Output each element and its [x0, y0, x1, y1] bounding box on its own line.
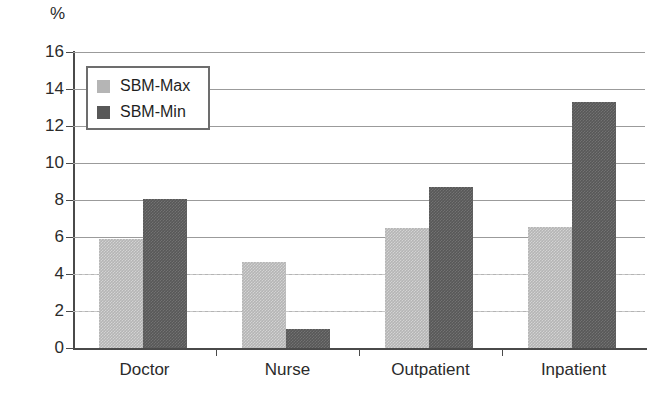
bar	[286, 329, 330, 348]
y-axis-tick-label: 16	[24, 42, 64, 62]
x-axis-line	[73, 348, 647, 350]
legend-item-sbm-min: SBM-Min	[97, 99, 208, 125]
y-axis-tick-label: 4	[24, 264, 64, 284]
legend-swatch-icon-sbm-min	[97, 106, 110, 119]
x-axis-label-inpatient: Inpatient	[541, 360, 606, 380]
y-axis-tick-labels: 0246810121416	[20, 52, 64, 348]
bar	[99, 239, 143, 348]
x-axis-label-doctor: Doctor	[119, 360, 169, 380]
legend-label-sbm-min: SBM-Min	[120, 103, 186, 121]
x-axis-tick	[502, 348, 503, 356]
chart-page: % 0246810121416 DoctorNurseOutpatientInp…	[0, 0, 668, 413]
bar	[242, 262, 286, 348]
y-axis-tick	[66, 274, 73, 275]
bar	[572, 102, 616, 348]
y-axis-tick-label: 10	[24, 153, 64, 173]
y-axis-tick	[66, 348, 73, 349]
y-axis-tick-label: 8	[24, 190, 64, 210]
y-axis-tick	[66, 89, 73, 90]
x-axis-tick	[359, 348, 360, 356]
y-axis-tick-label: 0	[24, 338, 64, 358]
gridline	[73, 163, 645, 164]
bar	[429, 187, 473, 348]
y-axis-tick	[66, 311, 73, 312]
bar	[143, 199, 187, 348]
gridline	[73, 52, 645, 53]
y-axis-tick-label: 2	[24, 301, 64, 321]
y-axis-tick	[66, 163, 73, 164]
x-axis-label-outpatient: Outpatient	[391, 360, 469, 380]
bar	[528, 227, 572, 348]
x-axis-tick	[216, 348, 217, 356]
y-axis-tick	[66, 237, 73, 238]
legend-label-sbm-max: SBM-Max	[120, 77, 190, 95]
x-axis-label-nurse: Nurse	[265, 360, 310, 380]
legend-item-sbm-max: SBM-Max	[97, 73, 208, 99]
chart-legend: SBM-Max SBM-Min	[86, 66, 210, 130]
y-axis-tick	[66, 52, 73, 53]
y-axis-tick	[66, 200, 73, 201]
bar	[385, 228, 429, 348]
y-axis-unit-label: %	[50, 4, 66, 24]
y-axis-tick-label: 6	[24, 227, 64, 247]
legend-swatch-icon-sbm-max	[97, 80, 110, 93]
y-axis-tick-label: 14	[24, 79, 64, 99]
y-axis-tick-label: 12	[24, 116, 64, 136]
y-axis-tick	[66, 126, 73, 127]
